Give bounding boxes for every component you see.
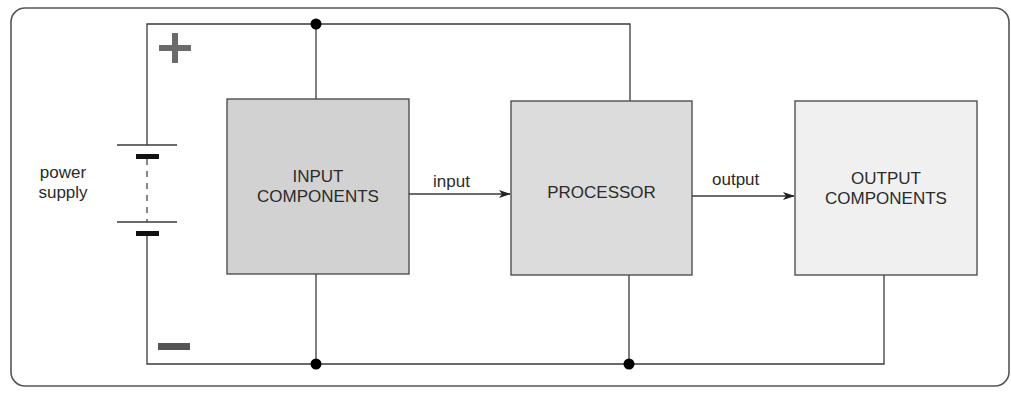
input-components-line1: INPUT — [227, 167, 409, 187]
output-components-line1: OUTPUT — [795, 169, 977, 189]
input-components-line2: COMPONENTS — [227, 187, 409, 207]
input-components-label: INPUT COMPONENTS — [227, 167, 409, 207]
junction-dot-top — [311, 19, 322, 30]
minus-icon — [158, 343, 190, 350]
output-components-label: OUTPUT COMPONENTS — [795, 169, 977, 209]
output-arrow-label: output — [712, 170, 759, 190]
processor-line1: PROCESSOR — [511, 183, 692, 203]
junction-dot-bottom-left — [311, 359, 322, 370]
power-supply-label: power supply — [31, 163, 95, 203]
power-supply-line1: power — [31, 163, 95, 183]
processor-label: PROCESSOR — [511, 183, 692, 203]
junction-dot-bottom-right — [624, 359, 635, 370]
battery-icon — [117, 145, 177, 236]
power-supply-line2: supply — [31, 183, 95, 203]
output-components-line2: COMPONENTS — [795, 189, 977, 209]
input-arrow-label: input — [433, 172, 470, 192]
plus-icon — [159, 33, 191, 63]
